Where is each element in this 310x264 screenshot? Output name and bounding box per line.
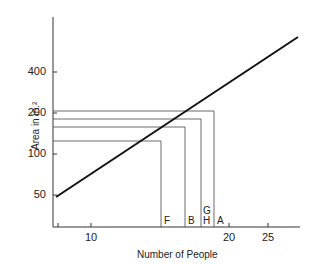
y-axis-title: Area in in.²: [30, 70, 41, 150]
marker-A: A: [217, 216, 224, 226]
x-axis-title: Number of People: [137, 249, 218, 260]
x-tick-25: 25: [258, 232, 278, 243]
y-tick-50: 50: [18, 189, 46, 200]
x-tick-20: 20: [219, 232, 239, 243]
chart-canvas: [0, 0, 310, 264]
marker-H: H: [203, 216, 210, 226]
marker-B: B: [188, 216, 195, 226]
marker-F: F: [164, 216, 170, 226]
data-line: [56, 37, 298, 197]
x-tick-10: 10: [81, 232, 101, 243]
